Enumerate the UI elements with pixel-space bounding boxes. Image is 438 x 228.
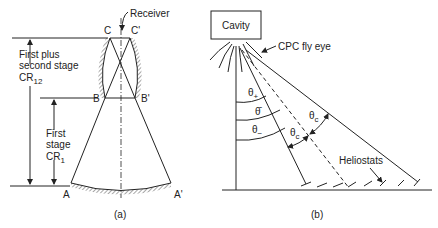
point-a-prime-label: A'	[174, 189, 183, 200]
panel-a: First plus second stage CR12 First stage…	[10, 8, 183, 220]
inner-dimension-label-cr: CR1	[46, 151, 65, 165]
theta-c-lower-label: θc	[290, 127, 300, 141]
cone-left-edge	[71, 98, 105, 183]
inner-dimension-label-line2: stage	[46, 139, 71, 150]
point-c-label: C	[104, 25, 111, 36]
receiver-pointer-arrow	[122, 12, 128, 30]
outer-dimension-label-line1: First plus	[19, 49, 60, 60]
point-c-prime-label: C'	[131, 25, 140, 36]
outer-dimension-label-line2: second stage	[19, 60, 79, 71]
diagram-canvas: First plus second stage CR12 First stage…	[0, 0, 438, 228]
ray-far	[246, 50, 418, 182]
point-b-label: B	[93, 93, 100, 104]
receiver-label: Receiver	[130, 8, 170, 19]
panel-b-caption: (b)	[311, 209, 323, 220]
theta-c-upper-label: θc	[309, 110, 319, 124]
theta-plus-label: θ+	[248, 87, 259, 101]
panel-b: Cavity CPC fly eye θ+ θ̄ θ−	[210, 11, 432, 220]
ray-near	[240, 48, 306, 184]
cone-right-edge	[135, 98, 171, 183]
edge-ray-1	[110, 38, 135, 98]
cpc-pointer-arrow	[262, 46, 276, 52]
cavity-label: Cavity	[222, 20, 250, 31]
heliostats-pointer-arrow	[370, 168, 382, 182]
heliostats	[301, 179, 420, 187]
panel-a-caption: (a)	[114, 209, 126, 220]
inner-dimension-label-line1: First	[46, 128, 66, 139]
outer-dimension-label-cr: CR12	[19, 72, 43, 86]
point-b-prime-label: B'	[141, 93, 150, 104]
point-a-label: A	[63, 189, 70, 200]
heliostats-label: Heliostats	[339, 155, 383, 166]
theta-minus-label: θ−	[252, 124, 263, 138]
theta-bar-label: θ̄	[255, 106, 263, 117]
cpc-fly-eye-label: CPC fly eye	[278, 41, 331, 52]
